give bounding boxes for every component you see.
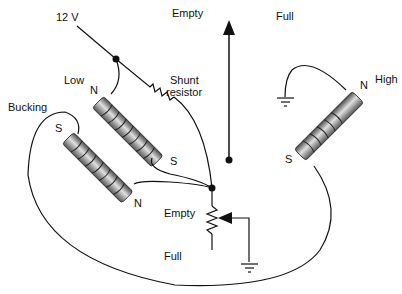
high-coil-ground-lead [285, 66, 346, 98]
high-coil [294, 91, 363, 160]
low-coil [92, 96, 163, 167]
gauge-needle [223, 20, 235, 164]
low-coil-lead [111, 59, 119, 94]
low-coil-label: Low [64, 74, 84, 86]
needle-arrow-icon [223, 20, 235, 35]
supply-voltage-label: 12 V [56, 11, 79, 23]
shunt-resistor-label-1: Shunt [170, 74, 199, 86]
shunt-resistor-label-2: resistor [166, 86, 202, 98]
bucking-coil-s-label: S [55, 122, 62, 134]
ground-icon-high [277, 98, 294, 106]
bucking-coil-label: Bucking [8, 101, 47, 113]
bucking-coil-n-label: N [134, 197, 142, 209]
ground-icon [241, 264, 258, 272]
gauge-empty-label: Empty [172, 7, 203, 19]
high-coil-s-label: S [285, 153, 292, 165]
high-coil-n-label: N [360, 79, 368, 91]
fuel-gauge-circuit-diagram [0, 0, 402, 294]
needle-pivot [226, 157, 233, 164]
sender-full-label: Full [164, 250, 182, 262]
sender-variable-resistor [207, 188, 249, 262]
bucking-coil [62, 132, 133, 203]
high-coil-label: High [375, 73, 398, 85]
gauge-full-label: Full [276, 10, 294, 22]
sender-empty-label: Empty [164, 207, 195, 219]
low-coil-s-label: S [170, 155, 177, 167]
low-coil-n-label: N [90, 84, 98, 96]
wiper-arrow-icon [218, 212, 232, 224]
